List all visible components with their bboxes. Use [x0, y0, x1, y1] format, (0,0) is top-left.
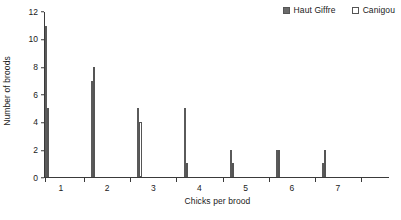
y-axis-tick-mark — [41, 39, 44, 40]
y-axis-tick-mark — [41, 67, 44, 68]
bar-group — [137, 12, 183, 177]
y-axis-tick-label: 2 — [33, 146, 41, 155]
plot-area: 024681012 1234567 — [44, 12, 389, 178]
y-axis-tick-label: 4 — [33, 118, 41, 127]
x-axis-tick-label: 4 — [197, 184, 202, 193]
x-axis-title: Chicks per brood — [40, 196, 395, 206]
y-axis-tick: 12 — [29, 8, 44, 17]
x-axis-tick-label: 3 — [151, 184, 156, 193]
bar-canigou — [47, 108, 49, 177]
y-axis-title-text: Number of broods — [2, 56, 12, 126]
bars-container — [45, 12, 389, 177]
bar-group — [276, 12, 322, 177]
x-axis-tick-label: 7 — [336, 184, 341, 193]
y-axis-tick: 2 — [33, 146, 44, 155]
x-axis-tick-mark — [84, 178, 85, 182]
bar-group — [230, 12, 276, 177]
x-axis-tick-label: 6 — [289, 184, 294, 193]
bar-canigou — [139, 122, 141, 177]
x-axis-ticks: 1234567 — [45, 178, 389, 182]
y-axis-tick-mark — [41, 95, 44, 96]
bar-chart: Haut Giffre Canigou Number of broods 024… — [0, 0, 401, 220]
x-axis-tick-label: 5 — [243, 184, 248, 193]
x-axis-tick-mark — [45, 178, 46, 182]
x-axis-tick-mark — [130, 178, 131, 182]
x-axis-tick-mark — [176, 178, 177, 182]
y-axis-title: Number of broods — [0, 0, 14, 182]
x-axis-tick-mark — [361, 178, 362, 182]
bar-canigou — [93, 67, 95, 177]
x-axis-tick-mark — [269, 178, 270, 182]
x-axis-tick-label: 2 — [105, 184, 110, 193]
bar-canigou — [232, 163, 234, 177]
y-axis-tick-mark — [41, 178, 44, 179]
y-axis-tick-mark — [41, 12, 44, 13]
bar-canigou — [324, 150, 326, 178]
x-axis-tick-label: 1 — [59, 184, 64, 193]
bar-group — [91, 12, 137, 177]
y-axis-tick: 0 — [33, 174, 44, 183]
y-axis-tick: 6 — [33, 91, 44, 100]
y-axis-tick-label: 10 — [29, 35, 41, 44]
bar-group — [322, 12, 368, 177]
y-axis-tick-label: 12 — [29, 8, 41, 17]
bar-group — [184, 12, 230, 177]
y-axis-tick: 10 — [29, 35, 44, 44]
y-axis-tick-mark — [41, 122, 44, 123]
y-axis-tick-label: 6 — [33, 91, 41, 100]
y-axis-tick-label: 8 — [33, 63, 41, 72]
y-axis-tick: 8 — [33, 63, 44, 72]
x-axis-tick-mark — [315, 178, 316, 182]
y-axis-tick-label: 0 — [33, 174, 41, 183]
bar-group — [45, 12, 91, 177]
x-axis-tick-mark — [223, 178, 224, 182]
y-axis-tick-mark — [41, 150, 44, 151]
y-axis-tick: 4 — [33, 118, 44, 127]
bar-canigou — [186, 163, 188, 177]
bar-canigou — [278, 150, 280, 178]
